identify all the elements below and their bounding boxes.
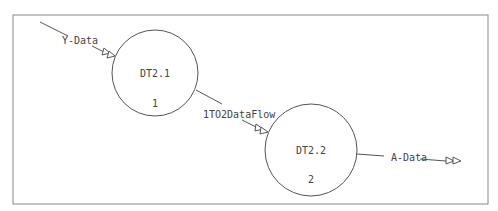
flow-1to2[interactable]: 1TO2DataFlow (196, 90, 276, 134)
arrowhead-icon (260, 127, 268, 134)
process-number: 1 (152, 98, 158, 109)
process-name: DT2.2 (296, 145, 326, 156)
process-number: 2 (308, 174, 314, 185)
process-name: DT2.1 (140, 68, 170, 79)
flow-label-a-data: A-Data (391, 152, 427, 163)
flow-label-y-data: Y-Data (62, 35, 98, 46)
flow-a-data[interactable]: A-Data (357, 152, 461, 164)
process-dt2-1[interactable]: DT2.1 1 (112, 30, 198, 116)
process-dt2-2[interactable]: DT2.2 2 (265, 104, 357, 196)
flow-label-1to2: 1TO2DataFlow (203, 109, 276, 120)
flow-y-data[interactable]: Y-Data (40, 22, 115, 58)
arrowhead-icon (453, 157, 461, 164)
arrowhead-icon (107, 51, 115, 58)
data-flow-diagram: Y-Data DT2.1 1 1TO2DataFlow DT2.2 2 A-Da… (0, 0, 498, 211)
